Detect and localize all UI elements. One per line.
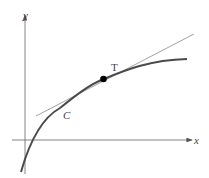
y-axis-label: y (22, 9, 28, 21)
curve-label: C (63, 109, 71, 121)
tangent-line-diagram: y x T C (0, 0, 209, 178)
tangent-label: T (111, 61, 118, 73)
point-of-tangency (100, 76, 107, 83)
x-axis-label: x (193, 134, 199, 146)
